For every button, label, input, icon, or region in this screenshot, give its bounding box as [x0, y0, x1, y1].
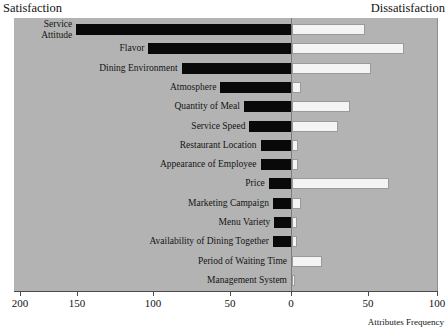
bar-row: Restaurant Location: [14, 135, 437, 156]
dissatisfaction-bar: [292, 121, 338, 132]
satisfaction-bar: [182, 63, 291, 74]
plot-area: ServiceAttitudeFlavorDining EnvironmentA…: [14, 18, 438, 291]
x-axis-tick-label: 200: [12, 297, 29, 310]
satisfaction-bar: [269, 178, 291, 189]
dissatisfaction-header: Dissatisfaction: [371, 1, 445, 15]
bar-row-label: Period of Waiting Time: [14, 256, 287, 267]
x-axis-title: Attributes Frequency: [368, 317, 444, 328]
x-axis-tick: [77, 291, 78, 296]
bar-row: Marketing Campaign: [14, 193, 437, 214]
dissatisfaction-bar: [292, 82, 301, 93]
x-axis-tick: [153, 291, 154, 296]
dissatisfaction-bar: [292, 159, 298, 170]
x-axis-tick: [230, 291, 231, 296]
bar-row-label: Quantity of Meal: [14, 101, 240, 112]
satisfaction-bar: [261, 140, 291, 151]
dissatisfaction-bar: [292, 275, 295, 286]
bar-row-label: Atmosphere: [14, 82, 216, 93]
bar-row-label: Dining Environment: [14, 63, 178, 74]
bar-row-label: Flavor: [14, 43, 144, 54]
x-axis-tick-label: 150: [69, 297, 86, 310]
bar-row: Quantity of Meal: [14, 96, 437, 117]
bar-row-label: Price: [14, 178, 265, 189]
bar-row-label: Restaurant Location: [14, 140, 257, 151]
bar-row: Period of Waiting Time: [14, 251, 437, 272]
dissatisfaction-bar: [292, 217, 297, 228]
x-axis-tick-label: 0: [288, 297, 294, 310]
satisfaction-bar: [244, 101, 291, 112]
dissatisfaction-bar: [292, 101, 350, 112]
satisfaction-bar: [220, 82, 291, 93]
x-axis-tick-label: 50: [225, 297, 236, 310]
dissatisfaction-bar: [292, 198, 301, 209]
bar-row: Appearance of Employee: [14, 154, 437, 175]
bar-row: Service Speed: [14, 116, 437, 137]
x-axis-tick-label: 100: [145, 297, 162, 310]
bar-row-label: ServiceAttitude: [14, 19, 72, 41]
satisfaction-header: Satisfaction: [3, 1, 62, 15]
x-axis-tick-label: 50: [363, 297, 374, 310]
satisfaction-bar: [273, 198, 291, 209]
bar-row: Management System: [14, 270, 437, 291]
bar-row-label: Appearance of Employee: [14, 159, 257, 170]
satisfaction-bar: [261, 159, 291, 170]
dissatisfaction-bar: [292, 140, 298, 151]
dissatisfaction-bar: [292, 63, 371, 74]
bar-row-label: Management System: [14, 275, 287, 286]
dissatisfaction-bar: [292, 256, 322, 267]
satisfaction-bar: [273, 236, 291, 247]
satisfaction-bar: [249, 121, 291, 132]
tornado-chart: Satisfaction Dissatisfaction ServiceAtti…: [0, 0, 448, 335]
x-axis-tick: [20, 291, 21, 296]
dissatisfaction-bar: [292, 178, 389, 189]
bar-row-label: Availability of Dining Together: [14, 236, 269, 247]
bar-row: Atmosphere: [14, 77, 437, 98]
satisfaction-bar: [274, 217, 291, 228]
dissatisfaction-bar: [292, 236, 297, 247]
bar-row-label: Menu Variety: [14, 217, 270, 228]
bar-row: Availability of Dining Together: [14, 231, 437, 252]
satisfaction-bar: [76, 24, 291, 35]
bar-row-label: Service Speed: [14, 121, 245, 132]
x-axis-tick: [291, 291, 292, 296]
bar-row: Price: [14, 173, 437, 194]
bar-row: Flavor: [14, 38, 437, 59]
zero-axis-line: [291, 18, 292, 291]
satisfaction-bar: [148, 43, 291, 54]
x-axis-tick: [368, 291, 369, 296]
bar-row: ServiceAttitude: [14, 19, 437, 40]
dissatisfaction-bar: [292, 43, 404, 54]
x-axis-tick: [437, 291, 438, 296]
bar-row-label: Marketing Campaign: [14, 198, 269, 209]
dissatisfaction-bar: [292, 24, 365, 35]
bar-row: Dining Environment: [14, 58, 437, 79]
x-axis-tick-label: 100: [429, 297, 446, 310]
bar-row: Menu Variety: [14, 212, 437, 233]
